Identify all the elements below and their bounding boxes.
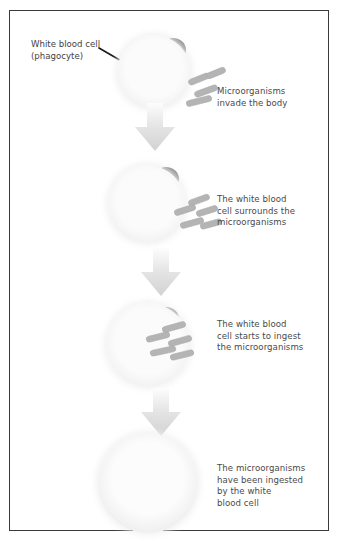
diagram-frame: White blood cell (phagocyte) [9, 10, 329, 531]
stage-2-caption: The white blood cell surrounds the micro… [217, 194, 321, 229]
stage-4-caption: The microorganisms have been ingested by… [217, 463, 327, 509]
cell-halo [98, 433, 198, 533]
down-arrow [134, 103, 176, 153]
stage-3-microorganisms [136, 316, 214, 376]
microorganism-cluster [136, 316, 214, 376]
stage-4-cell-group [94, 429, 210, 535]
stage-1-caption: Microorganisms invade the body [217, 86, 317, 109]
diagram-page: White blood cell (phagocyte) [0, 0, 341, 541]
down-arrow [140, 248, 182, 298]
white-blood-cell-callout-label: White blood cell (phagocyte) [31, 39, 100, 62]
stage-3-caption: The white blood cell starts to ingest th… [217, 319, 323, 354]
